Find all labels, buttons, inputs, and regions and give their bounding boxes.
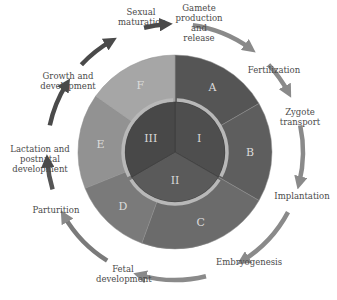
outer-segment-label: D (118, 200, 127, 213)
stage-label-lactation: Lactation and postnatal development (10, 144, 70, 174)
cycle-arrow-icon (64, 216, 107, 261)
inner-segment-label: I (197, 132, 201, 145)
stage-label-parturition: Parturition (30, 205, 82, 215)
inner-segment-label: II (171, 174, 180, 187)
outer-segment-label: E (96, 138, 104, 151)
inner-segment-label: III (144, 132, 157, 145)
stage-label-implantation: Implantation (274, 191, 330, 201)
stage-label-sexual-maturation: Sexual maturation (118, 7, 164, 27)
reproductive-cycle-diagram: ABCDEF IIIIII Sexual maturationGamete pr… (0, 0, 337, 300)
stage-label-fertilization: Fertilization (246, 65, 302, 75)
cycle-arrow-icon (299, 125, 303, 183)
outer-segment-label: A (208, 81, 218, 94)
outer-segment-label: B (246, 146, 254, 159)
stage-label-fetal-development: Fetal development (96, 264, 150, 284)
inner-circle: IIIIII (125, 102, 225, 202)
stage-label-zygote-transport: Zygote transport (278, 107, 322, 127)
outer-segment-label: F (137, 79, 145, 92)
cycle-arrow-icon (81, 41, 111, 65)
cycle-arrow-icon (243, 212, 288, 260)
stage-label-gamete-production: Gamete production and release (168, 3, 230, 43)
stage-label-embryogenesis: Embryogenesis (216, 257, 278, 267)
outer-segment-label: C (196, 216, 204, 229)
stage-label-growth: Growth and development (40, 71, 96, 91)
